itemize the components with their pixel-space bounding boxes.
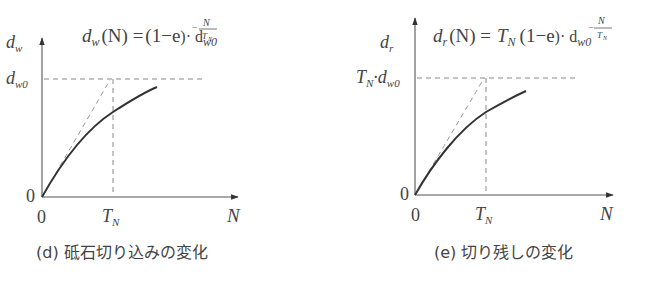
origin-x-label-d: 0 bbox=[37, 207, 46, 227]
y-axis-label-d: dw bbox=[6, 32, 23, 54]
y-level-label-d: dw0 bbox=[6, 68, 28, 90]
chart-e: dr(N) =TN(1−e)· dw0 − N T N dr TN·dw0 0 … bbox=[356, 15, 614, 262]
figure-canvas: dw(N) =(1−e)· dw0 − N T N dw dw0 0 0 bbox=[0, 0, 657, 284]
exponent-e: − N T N bbox=[588, 15, 612, 41]
svg-text:N: N bbox=[602, 35, 608, 41]
y-level-label-e: TN·dw0 bbox=[356, 67, 400, 89]
origin-y-label-e: 0 bbox=[400, 184, 409, 204]
curve-e bbox=[415, 91, 526, 195]
svg-text:−: − bbox=[192, 22, 197, 32]
origin-y-label-d: 0 bbox=[26, 186, 35, 206]
caption-d: (d) 砥石切り込みの変化 bbox=[36, 243, 208, 262]
formula-e: dr(N) =TN(1−e)· dw0 bbox=[433, 25, 591, 49]
x-axis-label-e: N bbox=[599, 203, 614, 224]
svg-text:−: − bbox=[588, 22, 593, 32]
origin-x-label-e: 0 bbox=[411, 205, 420, 225]
tn-label-e: TN bbox=[475, 204, 493, 226]
tn-label-d: TN bbox=[102, 206, 120, 228]
svg-text:N: N bbox=[202, 17, 211, 28]
x-axis-label-d: N bbox=[226, 205, 241, 226]
caption-e: (e) 切り残しの変化 bbox=[434, 243, 573, 262]
y-axis-label-e: dr bbox=[380, 32, 394, 54]
chart-d: dw(N) =(1−e)· dw0 − N T N dw dw0 0 0 bbox=[6, 17, 241, 262]
svg-text:N: N bbox=[597, 15, 606, 26]
curve-d bbox=[42, 87, 157, 197]
